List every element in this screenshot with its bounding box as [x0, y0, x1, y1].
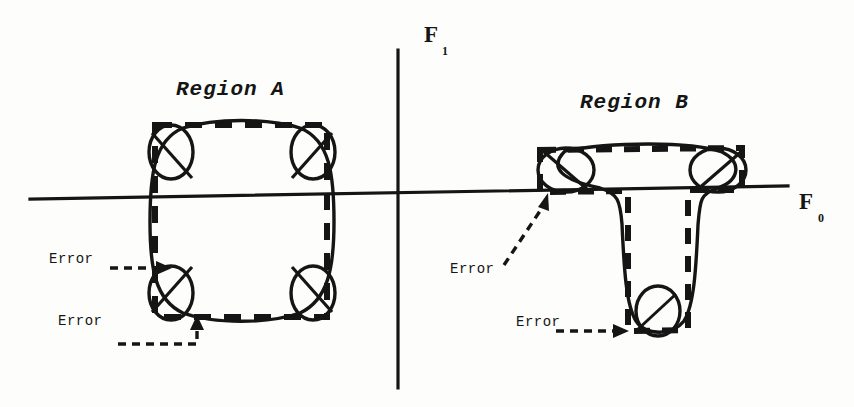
error-a-1-arrowhead [156, 261, 172, 275]
region-b-approx-curve [558, 144, 736, 332]
region-b-corner-cross-top-left [543, 151, 588, 190]
error-b-2-arrowhead [613, 324, 629, 338]
error-label-a-2: Error [58, 313, 103, 329]
error-label-b-1: Error [450, 261, 495, 277]
figure-canvas: Region A Region B Error Error Error Erro… [0, 0, 854, 407]
error-b-1-leader [504, 205, 544, 265]
error-label-a-1: Error [49, 251, 94, 267]
figure-drawing [0, 0, 854, 407]
x-axis-subscript: 0 [818, 211, 824, 226]
region-b-title: Region B [580, 91, 689, 114]
error-a-2-leader [118, 330, 197, 344]
region-a-dashed-boundary [155, 125, 327, 317]
region-b-stem-cross [636, 294, 676, 331]
region-a-group [149, 121, 335, 322]
y-axis-subscript: 1 [442, 44, 448, 59]
region-a-approx-curve [150, 121, 334, 322]
region-a-title: Region A [176, 78, 285, 101]
x-axis-label: F [799, 189, 813, 215]
region-b-group [538, 144, 746, 336]
error-b-1-arrowhead [538, 193, 549, 211]
error-label-b-2: Error [516, 314, 561, 330]
y-axis-label: F [424, 22, 438, 48]
x-axis-line [30, 186, 788, 199]
